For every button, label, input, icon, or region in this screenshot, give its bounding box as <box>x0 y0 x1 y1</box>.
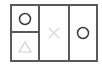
circle-icon <box>18 12 32 26</box>
triangle-icon <box>18 41 32 53</box>
cell-middle[interactable] <box>40 6 70 60</box>
cell-top-left[interactable] <box>12 6 40 33</box>
game-board <box>10 4 98 62</box>
cell-bottom-left[interactable] <box>12 33 40 60</box>
circle-icon <box>76 26 90 40</box>
cross-icon <box>48 27 60 39</box>
cell-right[interactable] <box>70 6 96 60</box>
